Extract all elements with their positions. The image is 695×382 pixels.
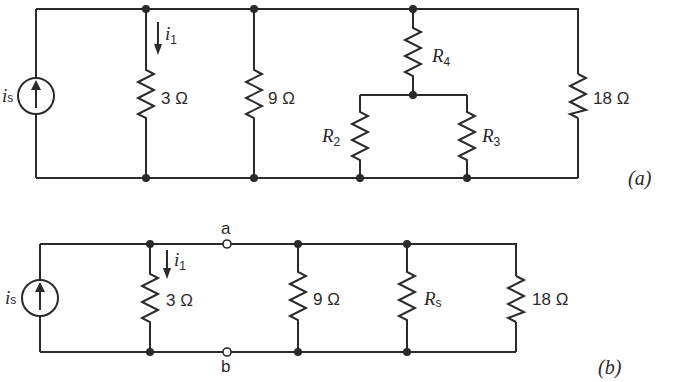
resistor-R2 (352, 95, 368, 178)
terminal-label-b: b (221, 357, 230, 376)
resistor-18ohm-b (508, 276, 524, 322)
branch-9ohm-b (290, 244, 306, 352)
resistor-R3 (459, 95, 475, 178)
resistor-label-18ohm-a: 18 Ω (593, 89, 629, 108)
caption-a: (a) (628, 167, 652, 190)
resistor-R4 (405, 9, 421, 95)
source-label-b: is (5, 287, 16, 308)
arrow-down-icon (154, 44, 162, 55)
terminal-a (223, 240, 231, 248)
resistor-label-R4: R4 (431, 45, 451, 69)
current-source-b (22, 280, 58, 316)
current-label-b: i1 (174, 249, 186, 273)
current-label-a: i1 (165, 23, 177, 47)
source-label-a: is (2, 85, 13, 106)
wire-top-b (40, 244, 516, 276)
circuit-figure: is i1 3 Ω 9 Ω R4 R2 R3 18 Ω (0, 0, 695, 382)
caption-b: (b) (598, 356, 622, 379)
arrow-down-icon (163, 268, 171, 279)
resistor-label-9ohm-b: 9 Ω (313, 290, 340, 309)
resistor-label-R3: R3 (481, 125, 501, 149)
resistor-label-3ohm-a: 3 Ω (161, 89, 188, 108)
terminal-b (223, 348, 231, 356)
arrow-up-icon (31, 80, 41, 90)
wire-top-a (36, 9, 578, 74)
resistor-18ohm-a (570, 74, 586, 118)
resistor-label-18ohm-b: 18 Ω (532, 290, 568, 309)
current-source-a (18, 78, 54, 114)
resistor-label-9ohm-a: 9 Ω (268, 89, 295, 108)
resistor-label-Rs: Rs (423, 288, 442, 310)
resistor-Rs (399, 244, 415, 352)
resistor-label-3ohm-b: 3 Ω (166, 291, 193, 310)
terminal-label-a: a (221, 219, 231, 238)
branch-3ohm-b (142, 244, 158, 352)
branch-9ohm-a (246, 9, 262, 178)
circuit-b: is i1 3 Ω a b 9 Ω Rs 18 Ω (b) (5, 219, 622, 379)
arrow-up-icon (35, 282, 45, 292)
resistor-label-R2: R2 (321, 125, 341, 149)
branch-3ohm-a (138, 9, 154, 178)
circuit-a: is i1 3 Ω 9 Ω R4 R2 R3 18 Ω (2, 5, 652, 190)
